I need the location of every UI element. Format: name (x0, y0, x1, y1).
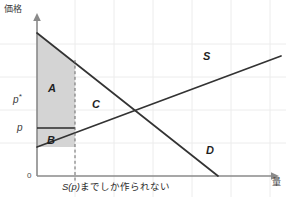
region-label-A: A (48, 83, 56, 94)
rationing-caption-italic: S(p) (62, 181, 80, 192)
supply-demand-chart: 価格 量 0 p* p A B C S D S(p)までしか作られない (0, 0, 286, 197)
region-label-B: B (47, 135, 55, 146)
y-axis-label: 価格 (4, 5, 22, 14)
y-tick-p-star-superscript: * (19, 92, 22, 101)
x-axis-label: 量 (272, 178, 281, 187)
y-tick-p-star: p* (13, 93, 22, 105)
curve-label-S: S (203, 51, 210, 62)
origin-label: 0 (27, 172, 31, 180)
chart-canvas (0, 0, 286, 197)
y-tick-p: p (17, 123, 23, 133)
rationing-caption-rest: までしか作られない (80, 181, 170, 192)
region-label-C: C (92, 99, 100, 110)
rationing-caption: S(p)までしか作られない (62, 182, 170, 192)
curve-label-D: D (206, 145, 214, 156)
x-axis (37, 172, 279, 180)
